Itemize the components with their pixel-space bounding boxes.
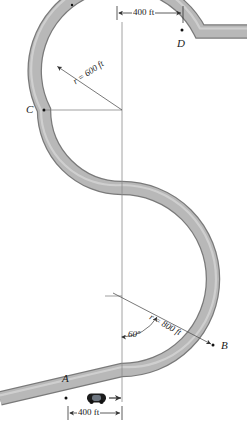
point-label-C: C — [26, 104, 33, 115]
dimension-label-bottom: 400 ft — [77, 408, 100, 417]
point-dot-C — [43, 109, 46, 112]
point-dot-A — [65, 397, 68, 400]
point-dot-B — [212, 344, 215, 347]
stray-dot-artifact — [71, 4, 73, 6]
car-icon — [87, 394, 121, 405]
figure-canvas: A B C D 400 ft 400 ft r = 600 ft r = 800… — [0, 0, 247, 435]
angle-label-60: 60° — [128, 330, 141, 339]
road-band — [0, 0, 247, 399]
point-label-A: A — [62, 373, 69, 384]
point-label-D: D — [177, 38, 185, 49]
point-label-B: B — [221, 340, 228, 351]
road-surface-path — [0, 0, 247, 399]
diagram-svg — [0, 0, 247, 435]
point-dot-D — [181, 29, 184, 32]
dimension-label-top: 400 ft — [132, 8, 155, 17]
